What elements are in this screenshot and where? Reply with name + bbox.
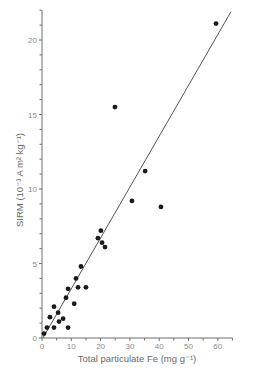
- x-tick-label: 0: [40, 342, 45, 351]
- y-tick-label: 20: [28, 36, 37, 45]
- y-tick-label: 15: [28, 111, 37, 120]
- data-point: [130, 199, 135, 204]
- fit-line: [43, 12, 231, 338]
- data-point: [159, 204, 164, 209]
- data-point: [100, 240, 105, 245]
- data-point: [98, 228, 103, 233]
- data-point: [84, 285, 89, 290]
- data-points: [42, 21, 219, 336]
- data-point: [52, 325, 57, 330]
- x-tick-label: 30: [125, 342, 134, 351]
- axes: 010203040506005101520: [28, 10, 232, 351]
- x-tick-label: 50: [184, 342, 193, 351]
- regression-line: [43, 12, 231, 338]
- data-point: [143, 169, 148, 174]
- y-tick-label: 5: [33, 260, 38, 269]
- data-point: [96, 236, 101, 241]
- data-point: [76, 285, 81, 290]
- data-point: [72, 301, 77, 306]
- data-point: [79, 264, 84, 269]
- data-point: [45, 325, 50, 330]
- data-point: [52, 304, 57, 309]
- x-tick-label: 60: [213, 342, 222, 351]
- data-point: [66, 286, 71, 291]
- data-point: [61, 316, 66, 321]
- data-point: [42, 331, 47, 336]
- data-point: [57, 319, 62, 324]
- y-tick-label: 0: [33, 334, 38, 343]
- data-point: [56, 310, 61, 315]
- data-point: [48, 315, 53, 320]
- x-tick-label: 10: [67, 342, 76, 351]
- x-tick-label: 20: [96, 342, 105, 351]
- data-point: [66, 325, 71, 330]
- data-point: [103, 245, 108, 250]
- data-point: [214, 21, 219, 26]
- y-tick-label: 10: [28, 185, 37, 194]
- data-point: [64, 295, 69, 300]
- scatter-chart: 010203040506005101520 Total particulate …: [0, 0, 260, 373]
- x-tick-label: 40: [155, 342, 164, 351]
- x-axis-title: Total particulate Fe (mg g⁻¹): [78, 353, 197, 364]
- data-point: [113, 105, 118, 110]
- data-point: [74, 276, 79, 281]
- y-axis-title: SIRM (10⁻³ A m² kg⁻¹): [14, 133, 25, 227]
